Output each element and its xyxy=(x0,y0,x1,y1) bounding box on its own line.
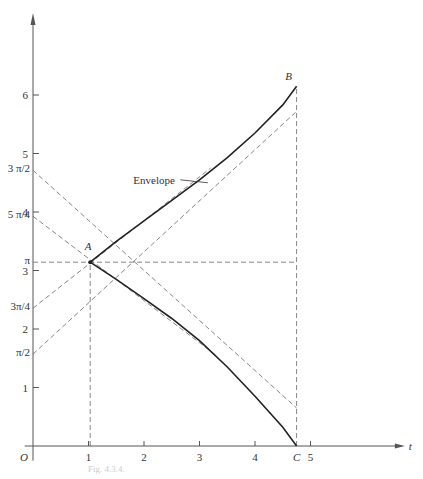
labels: tO12345123456π/23π/4π5 π/43 π/2ABCEnvelo… xyxy=(8,70,413,463)
x-axis-label: t xyxy=(409,440,413,452)
point-a-marker xyxy=(88,260,92,264)
origin-label: O xyxy=(20,451,28,463)
point-label-a: A xyxy=(84,240,92,252)
x-tick-label: 3 xyxy=(197,451,203,463)
x-tick-label: 5 xyxy=(308,451,314,463)
y-special-tick-label: π/2 xyxy=(16,346,30,358)
point-label-b: B xyxy=(285,70,292,82)
x-tick-label: 2 xyxy=(141,451,147,463)
upper-envelope-line xyxy=(90,86,296,262)
figure-caption: Fig. 4.3.4. xyxy=(88,464,125,474)
envelope-annotation-pointer xyxy=(180,180,208,183)
point-label-c: C xyxy=(293,451,301,463)
envelope-annotation: Envelope xyxy=(133,174,175,186)
x-axis-arrow xyxy=(395,444,405,449)
dashed-lines xyxy=(33,86,297,446)
y-special-tick-label: 3π/4 xyxy=(10,300,30,312)
y-special-tick-label: 5 π/4 xyxy=(8,208,31,220)
y-special-tick-label: π xyxy=(24,254,30,266)
lower-envelope-line xyxy=(90,262,296,446)
axes xyxy=(25,13,405,461)
y-tick-label: 5 xyxy=(23,148,29,160)
envelope-chart: tO12345123456π/23π/4π5 π/43 π/2ABCEnvelo… xyxy=(0,0,423,479)
x-tick-label: 1 xyxy=(86,451,92,463)
y-tick-label: 6 xyxy=(23,89,29,101)
y-tick-label: 2 xyxy=(23,323,29,335)
tangent-from-2-line xyxy=(33,111,297,354)
y-axis-arrow xyxy=(31,13,36,25)
y-tick-label: 3 xyxy=(23,265,29,277)
x-tick-label: 4 xyxy=(252,451,258,463)
y-special-tick-label: 3 π/2 xyxy=(8,162,30,174)
y-tick-label: 1 xyxy=(23,382,29,394)
